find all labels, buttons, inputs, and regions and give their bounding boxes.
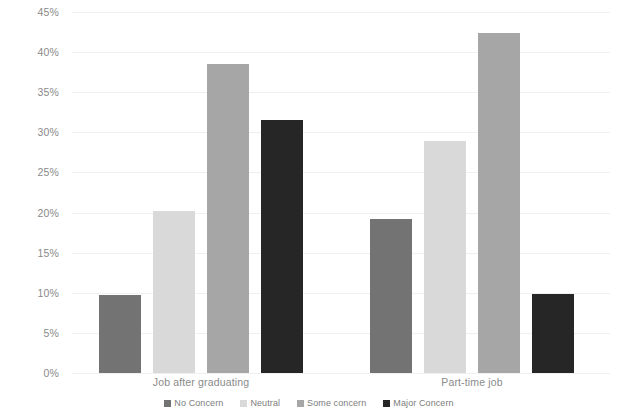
chart-legend: No ConcernNeutralSome concernMajor Conce… <box>0 398 618 408</box>
gridline <box>72 92 610 93</box>
gridline <box>72 12 610 13</box>
legend-item: Neutral <box>240 398 280 408</box>
x-axis-category-label: Part-time job <box>441 376 502 388</box>
bar <box>261 120 303 373</box>
bar-chart: 0%5%10%15%20%25%30%35%40%45% Job after g… <box>0 0 618 418</box>
bar <box>478 33 520 373</box>
y-axis-tick-label: 10% <box>37 287 59 299</box>
y-axis-tick-label: 35% <box>37 86 59 98</box>
legend-swatch-icon <box>297 400 304 407</box>
gridline <box>72 132 610 133</box>
bar <box>424 141 466 373</box>
legend-swatch-icon <box>240 400 247 407</box>
bar <box>370 219 412 373</box>
y-axis-tick-label: 15% <box>37 247 59 259</box>
bar <box>153 211 195 373</box>
bar <box>207 64 249 373</box>
legend-item: Major Concern <box>383 398 453 408</box>
legend-label: No Concern <box>174 398 223 408</box>
legend-label: Neutral <box>250 398 280 408</box>
y-axis-tick-label: 20% <box>37 207 59 219</box>
x-axis: Job after graduatingPart-time job <box>72 376 610 396</box>
legend-label: Some concern <box>307 398 366 408</box>
gridline <box>72 373 610 374</box>
y-axis-tick-label: 30% <box>37 126 59 138</box>
legend-item: Some concern <box>297 398 366 408</box>
gridline <box>72 52 610 53</box>
legend-swatch-icon <box>164 400 171 407</box>
x-axis-category-label: Job after graduating <box>153 376 249 388</box>
y-axis-tick-label: 0% <box>43 367 59 379</box>
gridline <box>72 172 610 173</box>
bar <box>532 294 574 373</box>
y-axis-tick-label: 40% <box>37 46 59 58</box>
y-axis-tick-label: 5% <box>43 327 59 339</box>
plot-area <box>72 12 610 373</box>
legend-swatch-icon <box>383 400 390 407</box>
legend-item: No Concern <box>164 398 223 408</box>
y-axis-tick-label: 25% <box>37 166 59 178</box>
y-axis: 0%5%10%15%20%25%30%35%40%45% <box>0 0 72 418</box>
y-axis-tick-label: 45% <box>37 6 59 18</box>
bar <box>99 295 141 373</box>
legend-label: Major Concern <box>393 398 453 408</box>
